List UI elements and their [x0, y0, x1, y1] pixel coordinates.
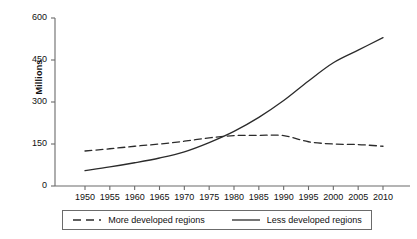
legend-label: More developed regions — [108, 215, 205, 225]
y-tick-label: 0 — [19, 181, 47, 190]
dashed-line-icon — [72, 215, 102, 225]
series-line-1 — [85, 135, 383, 151]
x-tick-label: 2010 — [366, 193, 400, 202]
y-tick-label: 150 — [19, 139, 47, 148]
series-line-2 — [85, 38, 383, 171]
y-tick-label: 450 — [19, 55, 47, 64]
solid-line-icon — [231, 215, 261, 225]
legend-item[interactable]: Less developed regions — [231, 215, 362, 225]
legend-item[interactable]: More developed regions — [72, 215, 205, 225]
line-chart: Millions 0150300450600 19501955196019651… — [0, 0, 417, 239]
plot-area — [0, 0, 417, 239]
series-lines — [85, 38, 383, 171]
chart-legend: More developed regionsLess developed reg… — [62, 210, 372, 230]
y-tick-label: 300 — [19, 97, 47, 106]
axis-lines — [51, 18, 410, 190]
y-tick-label: 600 — [19, 13, 47, 22]
legend-label: Less developed regions — [267, 215, 362, 225]
